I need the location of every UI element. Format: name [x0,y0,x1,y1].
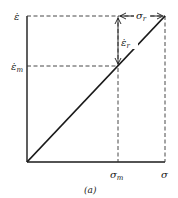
figure-caption: (a) [84,185,97,195]
stress-strain-rate-diagram: ε̇ ε̇m ε̇r σr σm σ (a) [0,0,178,198]
strain-rate-m-label: ε̇m [11,61,23,74]
sigma-m-label: σm [110,169,124,182]
sigma-label: σ [161,169,169,180]
linear-relation-line [27,16,165,162]
y-axis-label: ε̇ [14,11,19,22]
